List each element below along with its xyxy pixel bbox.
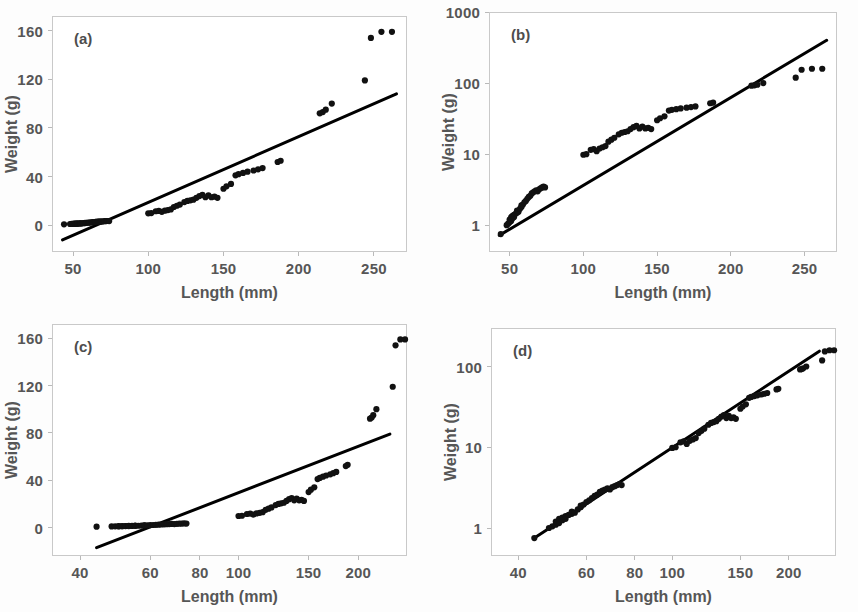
- data-point: [733, 416, 739, 422]
- data-point: [323, 107, 329, 113]
- data-point: [368, 35, 374, 41]
- y-tick-mark: [48, 338, 52, 339]
- x-tick-label: 150: [296, 564, 322, 581]
- x-tick-mark: [583, 252, 584, 256]
- x-tick-label: 200: [346, 564, 372, 581]
- x-tick-mark: [518, 556, 519, 560]
- x-tick-label: 250: [792, 260, 818, 277]
- x-tick-mark: [672, 556, 673, 560]
- x-axis-title-d: Length (mm): [615, 588, 712, 606]
- data-points-b: [498, 66, 826, 238]
- x-axis-title-a: Length (mm): [181, 284, 278, 302]
- panel-a: 5010015020025004080120160Length (mm)Weig…: [0, 0, 429, 306]
- x-tick-mark: [308, 556, 309, 560]
- x-tick-mark: [804, 252, 805, 256]
- y-tick-mark: [48, 176, 52, 177]
- panel-c: 40608010015020004080120160Length (mm)Wei…: [0, 306, 429, 612]
- y-axis-title-d: Weight (g): [442, 403, 460, 481]
- x-tick-mark: [509, 252, 510, 256]
- y-tick-mark: [485, 83, 489, 84]
- x-tick-label: 200: [286, 260, 312, 277]
- data-point: [301, 498, 307, 504]
- x-tick-mark: [358, 556, 359, 560]
- y-tick-label: 100: [429, 75, 480, 92]
- y-tick-label: 1: [429, 217, 480, 234]
- data-point: [362, 77, 368, 83]
- panel-label-b: (b): [511, 26, 530, 43]
- y-tick-mark: [48, 225, 52, 226]
- data-point: [183, 520, 189, 526]
- x-tick-label: 100: [571, 260, 597, 277]
- y-tick-mark: [48, 527, 52, 528]
- x-tick-mark: [586, 556, 587, 560]
- data-point: [754, 82, 760, 88]
- y-axis-title-b: Weight (g): [440, 93, 458, 171]
- x-tick-mark: [657, 252, 658, 256]
- data-point: [809, 66, 815, 72]
- x-tick-label: 200: [718, 260, 744, 277]
- panel-d: 406080100150200110100Length (mm)Weight (…: [429, 306, 858, 612]
- x-tick-mark: [298, 252, 299, 256]
- data-point: [803, 363, 809, 369]
- data-point: [583, 151, 589, 157]
- y-axis-title-c: Weight (g): [3, 401, 21, 479]
- data-point: [390, 384, 396, 390]
- data-point: [619, 482, 625, 488]
- x-axis-title-c: Length (mm): [181, 588, 278, 606]
- y-tick-label: 100: [429, 358, 482, 375]
- data-points-a: [61, 29, 395, 228]
- x-tick-label: 50: [501, 260, 518, 277]
- data-point: [678, 105, 684, 111]
- y-tick-mark: [485, 12, 489, 13]
- panel-label-c: (c): [74, 338, 92, 355]
- data-point: [392, 342, 398, 348]
- data-point: [793, 75, 799, 81]
- data-point: [760, 80, 766, 86]
- y-tick-mark: [487, 366, 491, 367]
- y-tick-label: 0: [0, 217, 43, 234]
- x-tick-label: 50: [65, 260, 82, 277]
- y-tick-mark: [485, 154, 489, 155]
- panel-b-inner: 501001502002501101001000Length (mm)Weigh…: [429, 0, 858, 306]
- x-tick-label: 80: [191, 564, 208, 581]
- x-tick-label: 80: [626, 564, 643, 581]
- panel-b: 501001502002501101001000Length (mm)Weigh…: [429, 0, 858, 306]
- x-tick-label: 100: [659, 564, 685, 581]
- y-tick-mark: [48, 79, 52, 80]
- x-tick-mark: [199, 556, 200, 560]
- y-tick-label: 120: [0, 71, 43, 88]
- y-tick-mark: [487, 528, 491, 529]
- y-tick-mark: [48, 432, 52, 433]
- x-tick-mark: [148, 252, 149, 256]
- data-point: [831, 347, 837, 353]
- data-point: [345, 462, 351, 468]
- x-tick-mark: [80, 556, 81, 560]
- x-tick-label: 60: [142, 564, 159, 581]
- x-tick-mark: [730, 252, 731, 256]
- y-tick-mark: [485, 225, 489, 226]
- x-axis-title-b: Length (mm): [615, 284, 712, 302]
- data-point: [373, 406, 379, 412]
- panel-a-inner: 5010015020025004080120160Length (mm)Weig…: [0, 0, 429, 306]
- data-point: [244, 169, 250, 175]
- data-point: [402, 336, 408, 342]
- data-point: [819, 66, 825, 72]
- data-point: [93, 524, 99, 530]
- x-tick-mark: [373, 252, 374, 256]
- fit-line-b: [499, 40, 826, 235]
- x-tick-label: 40: [510, 564, 527, 581]
- panel-label-d: (d): [513, 342, 532, 359]
- panel-c-inner: 40608010015020004080120160Length (mm)Wei…: [0, 306, 429, 612]
- fit-line-c: [97, 434, 390, 548]
- data-point: [106, 218, 112, 224]
- x-tick-label: 150: [644, 260, 670, 277]
- x-tick-label: 100: [135, 260, 161, 277]
- data-point: [542, 184, 548, 190]
- panel-label-a: (a): [74, 30, 92, 47]
- x-tick-mark: [634, 556, 635, 560]
- x-tick-label: 100: [226, 564, 252, 581]
- y-tick-label: 160: [0, 330, 43, 347]
- y-tick-mark: [48, 480, 52, 481]
- data-point: [648, 126, 654, 132]
- data-point: [214, 195, 220, 201]
